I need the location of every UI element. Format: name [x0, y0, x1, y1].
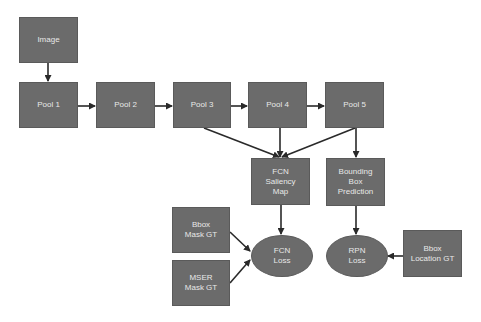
node-pool4: Pool 4 — [248, 82, 307, 128]
node-pool3: Pool 3 — [173, 82, 231, 128]
node-pool1: Pool 1 — [19, 82, 78, 128]
node-fcn-saliency-map: FCN Saliency Map — [251, 158, 310, 205]
node-image: Image — [19, 17, 78, 63]
edge-bboxmask-fcnloss — [230, 232, 250, 251]
node-bounding-box-prediction: Bounding Box Prediction — [326, 158, 385, 206]
node-pool5: Pool 5 — [325, 82, 384, 128]
edge-pool5-fcnmap — [282, 128, 355, 157]
node-bbox-mask-gt: Bbox Mask GT — [172, 207, 230, 253]
node-bbox-location-gt: Bbox Location GT — [403, 230, 462, 277]
node-rpn-loss: RPN Loss — [326, 235, 388, 277]
node-pool2: Pool 2 — [96, 82, 155, 128]
edge-msermask-fcnloss — [230, 260, 250, 283]
edge-pool3-fcnmap — [204, 128, 279, 157]
node-fcn-loss: FCN Loss — [251, 235, 313, 277]
node-mser-mask-gt: MSER Mask GT — [172, 260, 230, 306]
